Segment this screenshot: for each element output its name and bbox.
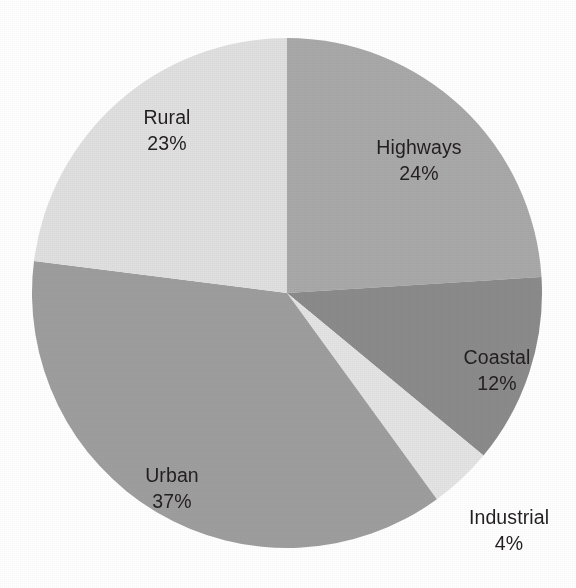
- pie-label-name: Industrial: [429, 505, 576, 531]
- pie-label-urban: Urban37%: [92, 463, 252, 514]
- pie-label-value: 24%: [339, 161, 499, 187]
- pie-label-value: 12%: [417, 371, 576, 397]
- pie-label-name: Urban: [92, 463, 252, 489]
- pie-label-name: Highways: [339, 135, 499, 161]
- pie-label-highways: Highways24%: [339, 135, 499, 186]
- pie-label-value: 4%: [429, 531, 576, 557]
- pie-label-value: 23%: [87, 131, 247, 157]
- pie-chart-canvas: [0, 0, 576, 588]
- pie-label-industrial: Industrial4%: [429, 505, 576, 556]
- pie-label-name: Coastal: [417, 345, 576, 371]
- pie-slice-rural[interactable]: [34, 38, 287, 293]
- pie-label-value: 37%: [92, 489, 252, 515]
- pie-chart: Highways24%Coastal12%Industrial4%Urban37…: [0, 0, 576, 588]
- pie-label-coastal: Coastal12%: [417, 345, 576, 396]
- pie-label-name: Rural: [87, 105, 247, 131]
- pie-label-rural: Rural23%: [87, 105, 247, 156]
